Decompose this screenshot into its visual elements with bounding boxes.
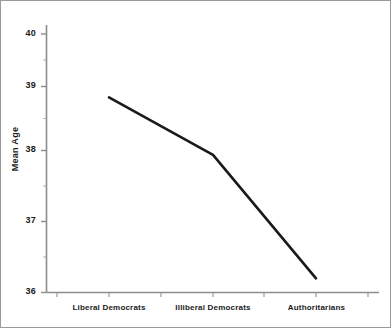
x-tick-label-illiberal-democrats: Illiberal Democrats: [162, 303, 264, 312]
y-major-ticks: [41, 34, 47, 293]
x-tick-label-authoritarians: Authoritarians: [268, 303, 365, 312]
y-tick-label-40: 40: [19, 28, 36, 38]
data-series-line: [109, 97, 316, 278]
y-tick-label-39: 39: [19, 80, 36, 90]
x-tick-label-liberal-democrats: Liberal Democrats: [59, 303, 159, 312]
line-chart-plot: [1, 1, 391, 328]
y-tick-label-38: 38: [19, 144, 36, 154]
y-tick-label-36: 36: [19, 286, 36, 296]
y-axis-title: Mean Age: [10, 119, 20, 179]
chart-figure: 40 39 38 37 36 Mean Age Liberal Democrat…: [0, 0, 391, 328]
y-tick-label-37: 37: [19, 215, 36, 225]
